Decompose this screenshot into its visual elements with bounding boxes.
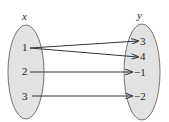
domain-element-2: 2	[22, 65, 28, 77]
arrow-1-to-3	[30, 41, 138, 48]
range-element-neg2: −2	[134, 90, 146, 102]
range-element-3: 3	[140, 35, 146, 47]
domain-element-3: 3	[22, 90, 28, 102]
range-element-neg1: −1	[134, 66, 146, 78]
arrow-1-to-4	[30, 48, 138, 57]
range-set-label: y	[136, 9, 142, 21]
domain-element-1: 1	[22, 41, 28, 53]
range-element-4: 4	[140, 50, 146, 62]
mapping-diagram: x 1 2 3 y 3 4 −1 −2	[0, 0, 169, 122]
domain-set-label: x	[21, 10, 27, 22]
